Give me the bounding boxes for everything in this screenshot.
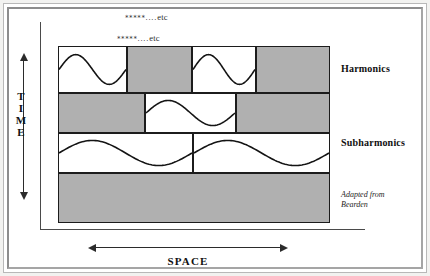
credit-note: Adapted from Bearden bbox=[341, 190, 384, 210]
grid-cell-row-harmonics-lower-3 bbox=[236, 93, 330, 133]
grid-cell-row-harmonics-lower-2 bbox=[145, 93, 236, 133]
space-axis-arrow bbox=[88, 243, 288, 252]
figure-container: *****....etc *****....etc T I M E Harmon… bbox=[0, 0, 430, 276]
sine-wave-icon bbox=[193, 47, 255, 92]
credit-line-2: Bearden bbox=[341, 200, 384, 210]
grid-cell-row-harmonics-upper-2 bbox=[127, 46, 192, 93]
grid-cell-row-subharmonics-upper-1 bbox=[58, 133, 193, 173]
sine-wave-icon bbox=[194, 134, 329, 172]
sine-wave-icon bbox=[59, 47, 126, 92]
arrow-right-icon bbox=[280, 244, 288, 252]
grid-cell-row-subharmonics-lower-1 bbox=[58, 173, 330, 223]
grid-cell-row-subharmonics-upper-2 bbox=[193, 133, 330, 173]
sine-wave-icon bbox=[59, 134, 192, 172]
axis-shaft bbox=[94, 247, 282, 248]
space-axis-label: SPACE bbox=[88, 255, 288, 267]
credit-line-1: Adapted from bbox=[341, 190, 384, 200]
grid-cell-row-harmonics-upper-4 bbox=[256, 46, 330, 93]
grid-cell-row-harmonics-upper-1 bbox=[58, 46, 127, 93]
label-harmonics: Harmonics bbox=[341, 63, 390, 74]
grid-cell-row-harmonics-lower-1 bbox=[58, 93, 145, 133]
sine-wave-icon bbox=[146, 94, 235, 132]
grid-cell-row-harmonics-upper-3 bbox=[192, 46, 256, 93]
label-subharmonics: Subharmonics bbox=[341, 137, 405, 148]
